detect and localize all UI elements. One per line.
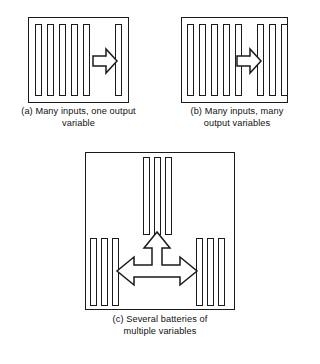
panel-b-input-bar-3 [211, 24, 218, 96]
panel-b [181, 17, 288, 103]
panel-c-top-bar-3 [165, 157, 172, 235]
panel-a-input-bar-4 [71, 24, 78, 96]
panel-c-caption: (c) Several batteries of multiple variab… [85, 314, 235, 337]
panel-b-right-arrow-icon [236, 47, 262, 75]
panel-a-input-bar-2 [47, 24, 54, 96]
panel-a [28, 17, 129, 103]
panel-a-right-arrow-icon [92, 47, 118, 75]
panel-b-input-bar-4 [223, 24, 230, 96]
panel-a-input-bar-3 [59, 24, 66, 96]
panel-a-input-bar-5 [83, 24, 90, 96]
panel-b-output-bar-3 [281, 24, 288, 96]
panel-c-left-bar-2 [101, 238, 108, 306]
panel-c-left-bar-1 [90, 238, 97, 306]
panel-a-input-bar-1 [35, 24, 42, 96]
panel-b-caption: (b) Many inputs, many output variables [172, 106, 302, 129]
panel-c-right-bar-3 [218, 238, 225, 306]
panel-b-input-bar-2 [199, 24, 206, 96]
panel-c-top-bar-2 [154, 157, 161, 235]
panel-c-tri-directional-arrow-icon [115, 230, 199, 292]
panel-b-input-bar-1 [187, 24, 194, 96]
panel-c [85, 152, 235, 310]
panel-b-output-bar-2 [269, 24, 276, 96]
figure-diagram: (a) Many inputs, one output variable (b)… [0, 0, 320, 364]
panel-a-caption: (a) Many inputs, one output variable [8, 106, 149, 129]
panel-c-right-bar-2 [207, 238, 214, 306]
panel-c-top-bar-1 [143, 157, 150, 235]
